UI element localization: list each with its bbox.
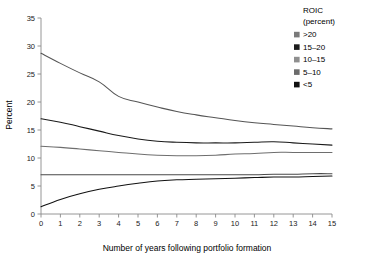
series-line-0 (41, 53, 332, 129)
series-line-3 (41, 174, 332, 175)
legend-swatch-4 (294, 82, 300, 88)
x-tick-label: 15 (328, 219, 336, 228)
x-tick-label: 5 (136, 219, 140, 228)
x-tick-label: 2 (78, 219, 82, 228)
legend-swatch-1 (294, 44, 300, 50)
legend-label-0: >20 (303, 30, 317, 39)
x-tick-label: 14 (308, 219, 316, 228)
legend-swatch-2 (294, 57, 300, 63)
y-tick-label: 20 (27, 98, 35, 107)
chart-canvas: 05101520253035 0123456789101112131415 RO… (0, 0, 381, 257)
x-tick-label: 3 (97, 219, 101, 228)
y-tick-label: 35 (27, 14, 35, 23)
series-line-4 (41, 176, 332, 207)
chart-legend: ROIC(percent)>2015–2010–155–10<5 (294, 6, 335, 89)
x-tick-label: 1 (58, 219, 62, 228)
legend-subtitle: (percent) (303, 17, 335, 26)
y-tick-label: 30 (27, 42, 35, 51)
x-tick-label: 12 (270, 219, 278, 228)
series-lines (41, 53, 332, 206)
x-tick-label: 6 (155, 219, 159, 228)
x-tick-label: 13 (289, 219, 297, 228)
legend-title: ROIC (303, 6, 323, 15)
y-axis: 05101520253035 (27, 14, 41, 219)
y-tick-label: 5 (31, 182, 35, 191)
y-tick-label: 15 (27, 126, 35, 135)
x-tick-label: 7 (175, 219, 179, 228)
legend-swatch-0 (294, 32, 300, 38)
legend-swatch-3 (294, 69, 300, 75)
y-tick-label: 25 (27, 70, 35, 79)
legend-label-2: 10–15 (303, 55, 326, 64)
x-tick-label: 8 (194, 219, 198, 228)
y-tick-label: 0 (31, 210, 35, 219)
x-axis: 0123456789101112131415 (39, 214, 336, 228)
y-axis-title: Percent (4, 100, 14, 130)
series-line-1 (41, 119, 332, 145)
x-axis-title: Number of years following portfolio form… (103, 243, 272, 253)
x-tick-label: 4 (117, 219, 121, 228)
y-tick-label: 10 (27, 154, 35, 163)
x-tick-label: 0 (39, 219, 43, 228)
series-line-2 (41, 146, 332, 156)
x-tick-label: 10 (231, 219, 239, 228)
legend-label-1: 15–20 (303, 43, 326, 52)
roic-line-chart: 05101520253035 0123456789101112131415 RO… (0, 0, 381, 257)
x-tick-label: 9 (214, 219, 218, 228)
x-tick-label: 11 (251, 219, 259, 228)
legend-label-4: <5 (303, 80, 313, 89)
legend-label-3: 5–10 (303, 68, 321, 77)
